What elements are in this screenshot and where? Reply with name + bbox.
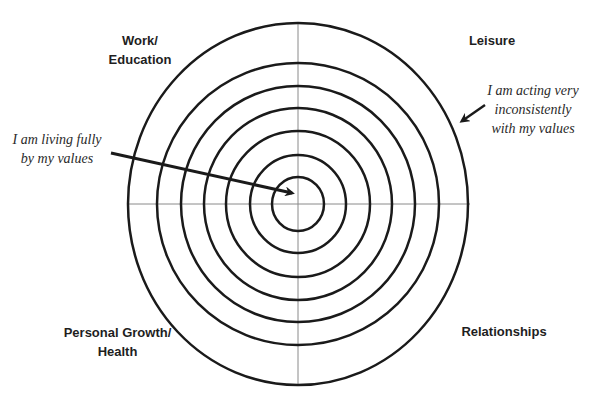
annotation-line: inconsistently: [470, 100, 596, 119]
label-line: Work/: [90, 31, 190, 50]
annotation-line: I am living fully: [2, 130, 112, 149]
annotation-line: with my values: [470, 119, 596, 138]
label-line: Education: [90, 50, 190, 69]
quadrant-label-relationships: Relationships: [454, 322, 554, 341]
label-line: Relationships: [454, 322, 554, 341]
quadrant-label-work-education: Work/ Education: [90, 31, 190, 69]
annotation-line: I am acting very: [470, 81, 596, 100]
label-line: Personal Growth/: [50, 323, 185, 342]
label-line: Leisure: [452, 31, 532, 50]
annotation-living-fully: I am living fully by my values: [2, 130, 112, 168]
quadrant-label-personal-growth-health: Personal Growth/ Health: [50, 323, 185, 361]
label-line: Health: [50, 342, 185, 361]
quadrant-label-leisure: Leisure: [452, 31, 532, 50]
arrow-to-center: [111, 153, 292, 193]
annotation-line: by my values: [2, 149, 112, 168]
annotation-acting-inconsistently: I am acting very inconsistently with my …: [470, 81, 596, 138]
